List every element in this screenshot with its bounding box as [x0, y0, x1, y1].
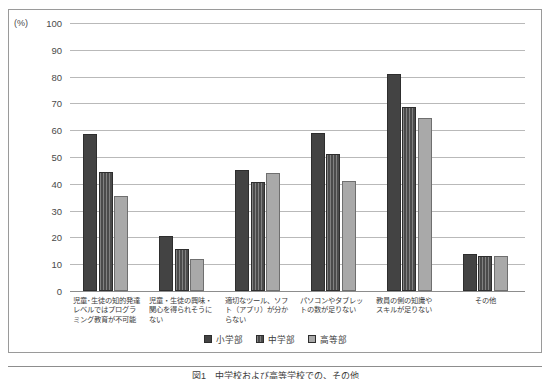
- caption-divider: [8, 366, 542, 367]
- y-axis-tick-label: 80: [22, 73, 62, 82]
- figure-caption: 図1 中学校および高等学校での、その他: [0, 370, 551, 379]
- bar: [311, 133, 325, 291]
- bar: [402, 107, 416, 291]
- legend-label: 中学部: [268, 333, 295, 345]
- bar: [190, 259, 204, 291]
- y-axis-tick-label: 30: [22, 207, 62, 216]
- y-axis-tick-label: 100: [22, 19, 62, 28]
- gridline: [70, 77, 525, 78]
- legend-swatch-icon: [308, 335, 316, 343]
- x-axis-line: [70, 291, 525, 292]
- bar: [114, 196, 128, 291]
- x-axis-category-label: その他: [465, 296, 505, 305]
- gridline: [70, 157, 525, 158]
- gridline: [70, 103, 525, 104]
- y-axis-tick-label: 70: [22, 99, 62, 108]
- legend-swatch-icon: [256, 335, 264, 343]
- bar: [175, 249, 189, 291]
- bar: [99, 172, 113, 291]
- bar: [387, 74, 401, 291]
- x-axis-category-label: 教員の側の知識やスキルが足りない: [376, 296, 444, 315]
- category-label-line: レベルではプログラ: [73, 305, 141, 314]
- bar-group: [463, 23, 508, 291]
- y-axis-tick-label: 50: [22, 153, 62, 162]
- category-label-line: ト（アプリ）が分か: [225, 305, 293, 314]
- bar: [251, 182, 265, 291]
- y-axis-tick-label: 90: [22, 46, 62, 55]
- category-label-line: 適切なツール、ソフ: [225, 296, 293, 305]
- legend-item[interactable]: 小学部: [204, 333, 243, 345]
- y-axis-tick-label: 60: [22, 126, 62, 135]
- bar: [83, 134, 97, 291]
- category-label-line: スキルが足りない: [376, 305, 444, 314]
- category-label-line: パソコンやタブレッ: [300, 296, 368, 305]
- bar: [418, 118, 432, 291]
- bar: [342, 181, 356, 291]
- bar: [494, 256, 508, 291]
- x-axis-category-label: パソコンやタブレットの数が足りない: [300, 296, 368, 315]
- category-label-line: 関心を得られそうに: [149, 305, 217, 314]
- y-axis-tick-label: 10: [22, 260, 62, 269]
- gridline: [70, 23, 525, 24]
- chart-legend: 小学部中学部高等部: [0, 333, 551, 345]
- category-label-line: らない: [225, 315, 293, 324]
- x-axis-category-label: 児童・生徒の興味・関心を得られそうにない: [149, 296, 217, 324]
- x-axis-category-label: 児童･生徒の知的発達レベルではプログラミング教育が不可能: [73, 296, 141, 324]
- chart-screenshot: (%) 1009080706050403020100 児童･生徒の知的発達レベル…: [0, 0, 551, 379]
- y-axis-tick-label: 40: [22, 180, 62, 189]
- gridline: [70, 50, 525, 51]
- gridline: [70, 264, 525, 265]
- gridline: [70, 184, 525, 185]
- gridline: [70, 130, 525, 131]
- category-label-line: その他: [465, 296, 505, 305]
- category-label-line: ない: [149, 315, 217, 324]
- bar: [235, 170, 249, 291]
- bar: [159, 236, 173, 291]
- bar-group: [235, 23, 280, 291]
- gridline: [70, 211, 525, 212]
- x-axis-category-label: 適切なツール、ソフト（アプリ）が分からない: [225, 296, 293, 324]
- bar: [326, 154, 340, 291]
- y-axis-tick-label: 0: [22, 287, 62, 296]
- bar-group: [387, 23, 432, 291]
- y-axis-ticks: 1009080706050403020100: [16, 23, 62, 291]
- legend-item[interactable]: 高等部: [308, 333, 347, 345]
- gridline: [70, 237, 525, 238]
- category-label-line: 児童･生徒の知的発達: [73, 296, 141, 305]
- bar: [463, 254, 477, 291]
- bar-group: [159, 23, 204, 291]
- category-label-line: 児童・生徒の興味・: [149, 296, 217, 305]
- bar: [266, 173, 280, 291]
- bar-group: [311, 23, 356, 291]
- category-label-line: 教員の側の知識や: [376, 296, 444, 305]
- legend-label: 小学部: [216, 333, 243, 345]
- plot-area: [70, 23, 525, 291]
- legend-label: 高等部: [320, 333, 347, 345]
- bar-group: [83, 23, 128, 291]
- legend-swatch-icon: [204, 335, 212, 343]
- category-label-line: トの数が足りない: [300, 305, 368, 314]
- bar: [478, 256, 492, 291]
- y-axis-tick-label: 20: [22, 233, 62, 242]
- legend-item[interactable]: 中学部: [256, 333, 295, 345]
- category-label-line: ミング教育が不可能: [73, 315, 141, 324]
